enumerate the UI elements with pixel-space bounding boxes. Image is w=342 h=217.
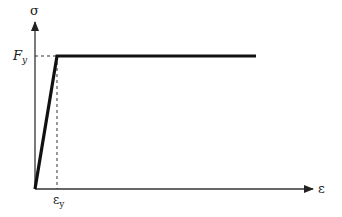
yield-strain-subscript: y (58, 199, 65, 209)
y-axis-label: σ (30, 3, 39, 18)
yield-stress-label: Fy (12, 48, 28, 65)
x-axis-label: ε (318, 181, 325, 196)
stress-strain-curve (35, 56, 256, 189)
stress-strain-diagram: σ ε Fy εy (0, 0, 342, 217)
yield-strain-label: εy (53, 193, 65, 209)
yield-stress-subscript: y (21, 55, 28, 65)
